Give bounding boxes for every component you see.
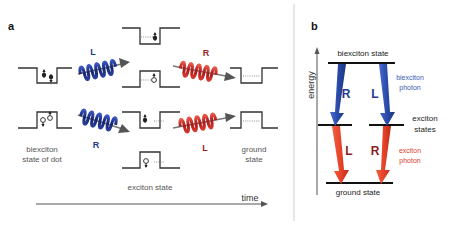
photon-label-top-right: R xyxy=(203,48,210,58)
photon-top-left: L xyxy=(78,47,130,81)
ground-caption-line2: state xyxy=(245,155,263,164)
panel-b: b energy biexciton state exciton states … xyxy=(306,20,438,197)
biexciton-caption-line1: biexciton xyxy=(26,145,58,154)
exciton-caption: exciton state xyxy=(128,183,173,192)
photon-label-bottom-left: R xyxy=(93,140,100,150)
biexciton-well-top xyxy=(18,68,72,83)
exciton-well-4 xyxy=(122,152,180,168)
electron-spin-up-icon xyxy=(153,32,157,41)
biexciton-well-bottom xyxy=(18,111,72,128)
photon-top-right: R xyxy=(173,48,236,81)
biexciton-caption-line2: state of dot xyxy=(22,155,62,164)
exciton-well-1 xyxy=(122,28,180,44)
biexciton-photon-label-line2: photon xyxy=(399,84,421,92)
photon-bottom-right: L xyxy=(173,113,236,153)
exciton-photon-label-line2: photon xyxy=(399,157,421,165)
hole-spin-down-icon xyxy=(144,159,149,168)
transition-label-left-lower: L xyxy=(345,144,352,158)
exciton-photon-label-line1: exciton xyxy=(399,147,421,154)
electron-spin-up-icon xyxy=(143,114,147,123)
electron-spin-down-icon xyxy=(49,74,53,83)
exciton-well-2 xyxy=(122,71,180,87)
panel-a: a biexciton state of dot L xyxy=(8,20,278,207)
time-axis: time xyxy=(36,193,268,207)
panel-b-label: b xyxy=(311,20,318,32)
transition-label-right-upper: L xyxy=(371,87,378,101)
ground-well-top xyxy=(230,68,278,83)
arrow-up-icon xyxy=(315,47,320,54)
helix-red-icon xyxy=(179,62,217,82)
exciton-level-label-line1: exciton xyxy=(412,114,437,123)
photon-label-top-left: L xyxy=(90,47,96,57)
transition-label-left-upper: R xyxy=(342,87,351,101)
time-axis-label: time xyxy=(241,193,258,203)
biexciton-photon-label-line1: biexciton xyxy=(396,74,424,81)
transition-right-upper: L xyxy=(371,64,395,126)
transition-right-lower: R xyxy=(371,126,391,184)
transition-left-lower: L xyxy=(332,126,353,184)
ground-caption-line1: ground xyxy=(242,145,267,154)
energy-axis: energy xyxy=(306,47,320,195)
hole-spin-up-icon xyxy=(152,73,157,82)
panel-a-label: a xyxy=(8,20,15,32)
photon-label-bottom-right: L xyxy=(202,143,208,153)
hole-spin-down-icon xyxy=(41,118,46,127)
helix-blue-icon xyxy=(79,60,117,81)
transition-left-upper: R xyxy=(330,64,351,126)
transition-label-right-lower: R xyxy=(371,144,380,158)
figure: a biexciton state of dot L xyxy=(0,0,449,229)
energy-axis-label: energy xyxy=(306,71,316,99)
arrow-right-icon xyxy=(261,201,268,207)
ground-well-bottom xyxy=(230,112,278,128)
ground-level-label: ground state xyxy=(336,188,381,197)
biexciton-level-label: biexciton state xyxy=(337,49,389,58)
photon-bottom-left: R xyxy=(78,110,130,150)
exciton-well-3 xyxy=(122,112,180,128)
exciton-level-label-line2: states xyxy=(414,125,435,134)
electron-spin-up-icon xyxy=(42,69,46,78)
